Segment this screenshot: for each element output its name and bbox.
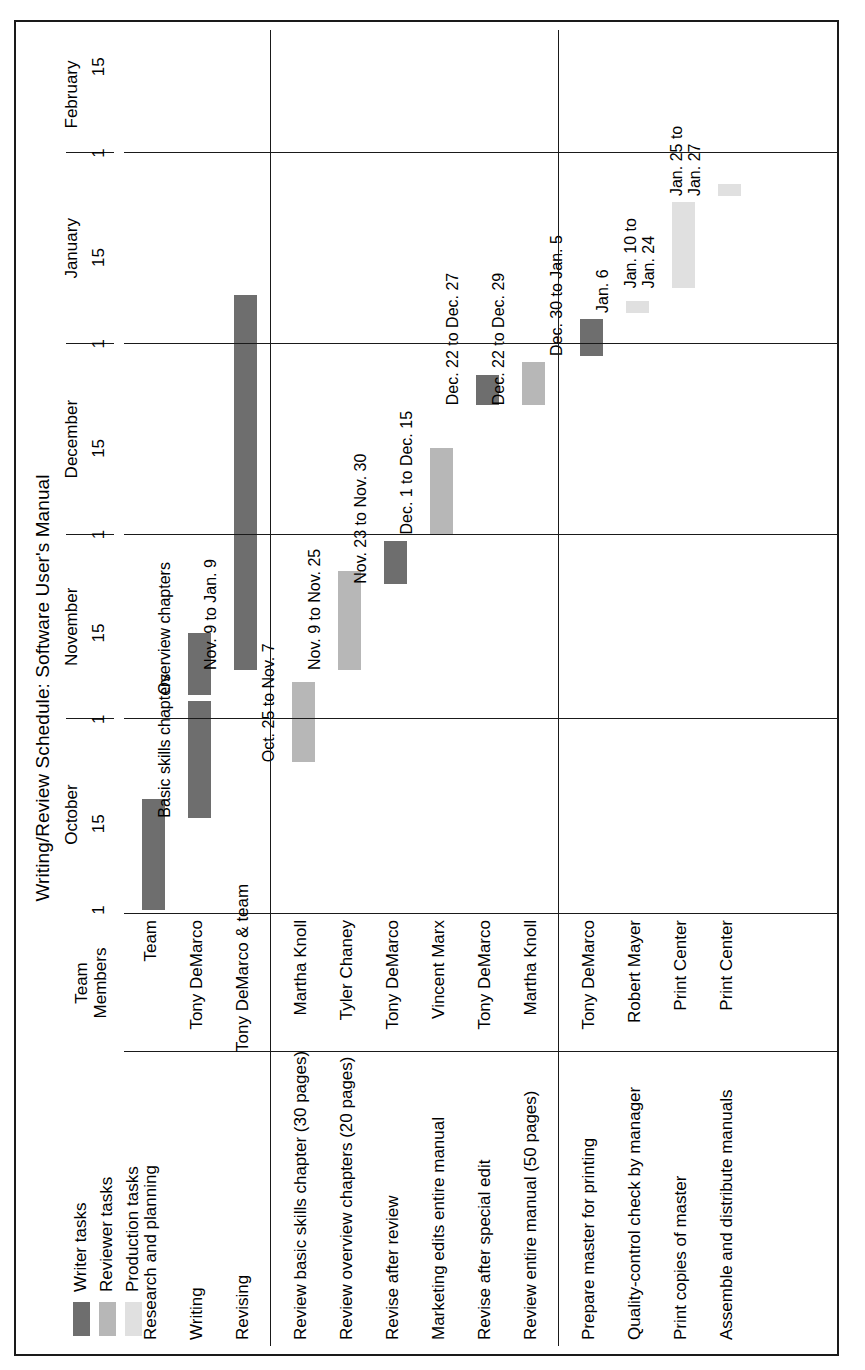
team-member-label: Vincent Marx	[429, 920, 449, 1052]
task-label: Revising	[233, 1058, 253, 1340]
bar-track: Jan. 6	[614, 36, 660, 910]
month-label: October	[62, 719, 82, 910]
gantt-bar[interactable]	[292, 682, 315, 762]
gantt-bar[interactable]	[234, 295, 257, 670]
chart-body: Research and planningTeamWritingTony DeM…	[124, 22, 837, 1354]
gantt-bar[interactable]	[522, 362, 545, 405]
team-members-line-2: Members	[91, 923, 110, 1043]
bar-date-label: Oct. 25 to Nov. 7	[260, 643, 278, 762]
bar-date-label: Dec. 1 to Dec. 15	[398, 411, 416, 535]
legend-label: Reviewer tasks	[97, 1177, 117, 1292]
table-row[interactable]: Revise after reviewTony DeMarcoNov. 23 t…	[372, 22, 418, 1354]
team-member-label: Tyler Chaney	[337, 920, 357, 1052]
axis-tick-label: 15	[89, 56, 109, 78]
axis-tick-label: 1	[89, 708, 109, 730]
bar-date-label: Overview chapters	[156, 562, 174, 695]
bar-date-label: Jan. 6	[594, 269, 612, 313]
task-label: Review overview chapters (20 pages)	[337, 1058, 357, 1340]
month-label: January	[62, 153, 82, 344]
task-label: Research and planning	[141, 1058, 161, 1340]
gantt-bar[interactable]	[430, 448, 453, 534]
month-label: February	[62, 36, 82, 153]
legend-label: Writer tasks	[71, 1203, 91, 1292]
bar-track: Jan. 25 toJan. 27	[706, 36, 752, 910]
gantt-bar[interactable]	[718, 184, 741, 196]
task-label: Review entire manual (50 pages)	[521, 1058, 541, 1340]
bar-track: Oct. 25 to Nov. 7	[280, 36, 326, 910]
bar-date-label: Nov. 9 to Jan. 9	[202, 559, 220, 670]
table-row[interactable]: Revise after special editTony DeMarcoDec…	[464, 22, 510, 1354]
task-label: Revise after special edit	[475, 1058, 495, 1340]
bar-track: Basic skills chaptersOverview chapters	[176, 36, 222, 910]
gantt-bar[interactable]	[626, 301, 649, 313]
task-label: Prepare master for printing	[579, 1058, 599, 1340]
month-gridline	[124, 534, 837, 535]
month-gridline	[124, 343, 837, 344]
team-members-line-1: Team	[72, 923, 91, 1043]
legend-swatch	[99, 1302, 116, 1336]
team-member-label: Tony DeMarco	[579, 920, 599, 1052]
team-member-label: Team	[141, 920, 161, 1052]
bar-track: Nov. 9 to Jan. 9	[222, 36, 268, 910]
task-label: Print copies of master	[671, 1058, 691, 1340]
bar-track: Dec. 1 to Dec. 15	[418, 36, 464, 910]
task-label: Assemble and distribute manuals	[717, 1058, 737, 1340]
bar-date-label: Nov. 23 to Nov. 30	[352, 454, 370, 584]
table-row[interactable]: Assemble and distribute manualsPrint Cen…	[706, 22, 752, 1354]
axis-tick-label: 1	[89, 333, 109, 355]
bar-date-label: Dec. 30 to Jan. 5	[548, 235, 566, 356]
team-member-label: Print Center	[671, 920, 691, 1052]
team-member-label: Robert Mayer	[625, 920, 645, 1052]
legend-item: Writer tasks	[68, 1168, 94, 1336]
axis-tick-label: 15	[89, 247, 109, 269]
bar-date-label: Nov. 9 to Nov. 25	[306, 549, 324, 670]
bar-track: Dec. 30 to Jan. 5	[568, 36, 614, 910]
axis-tick-label: 15	[89, 813, 109, 835]
bar-date-label: Basic skills chapters	[156, 674, 174, 818]
task-label: Revise after review	[383, 1058, 403, 1340]
team-member-label: Martha Knoll	[291, 920, 311, 1052]
gantt-bar[interactable]	[338, 572, 361, 670]
team-member-label: Print Center	[717, 920, 737, 1052]
table-row[interactable]: WritingTony DeMarcoBasic skills chapters…	[176, 22, 222, 1354]
task-label: Quality-control check by manager	[625, 1058, 645, 1340]
axis-tick-label: 1	[89, 142, 109, 164]
team-member-label: Tony DeMarco	[475, 920, 495, 1052]
table-row[interactable]: Review entire manual (50 pages)Martha Kn…	[510, 22, 556, 1354]
team-member-label: Tony DeMarco & team	[233, 920, 253, 1052]
bar-date-label: Jan. 25 toJan. 27	[668, 126, 703, 196]
legend-item: Reviewer tasks	[94, 1168, 120, 1336]
timeline-header: OctoberNovemberDecemberJanuaryFebruary11…	[62, 36, 124, 910]
month-label: November	[62, 535, 82, 720]
table-row[interactable]: Prepare master for printingTony DeMarcoD…	[568, 22, 614, 1354]
rotated-chart-canvas: Writing/Review Schedule: Software User's…	[0, 0, 865, 1370]
legend-swatch	[73, 1302, 90, 1336]
bar-date-label: Jan. 10 toJan. 24	[622, 218, 657, 288]
task-label: Review basic skills chapter (30 pages)	[291, 1058, 311, 1340]
month-label: December	[62, 344, 82, 535]
axis-tick-label: 15	[89, 437, 109, 459]
gantt-bar[interactable]	[580, 319, 603, 356]
task-label: Writing	[187, 1058, 207, 1340]
page-title: Writing/Review Schedule: Software User's…	[32, 22, 54, 1354]
gantt-bar[interactable]	[384, 541, 407, 584]
bar-track: Dec. 22 to Dec. 29	[510, 36, 556, 910]
axis-tick-label: 1	[89, 899, 109, 921]
team-member-label: Tony DeMarco	[187, 920, 207, 1052]
table-row[interactable]: Print copies of masterPrint CenterJan. 1…	[660, 22, 706, 1354]
group-separator	[558, 30, 559, 1346]
gantt-chart-sheet: Writing/Review Schedule: Software User's…	[14, 20, 839, 1356]
gantt-bar[interactable]	[672, 202, 695, 288]
axis-tick-label: 1	[89, 524, 109, 546]
table-row[interactable]: Marketing edits entire manualVincent Mar…	[418, 22, 464, 1354]
team-member-label: Martha Knoll	[521, 920, 541, 1052]
task-label: Marketing edits entire manual	[429, 1058, 449, 1340]
table-row[interactable]: Review overview chapters (20 pages)Tyler…	[326, 22, 372, 1354]
bar-date-label: Dec. 22 to Dec. 29	[490, 273, 508, 406]
team-member-label: Tony DeMarco	[383, 920, 403, 1052]
table-row[interactable]: Review basic skills chapter (30 pages)Ma…	[280, 22, 326, 1354]
bar-date-label: Dec. 22 to Dec. 27	[444, 273, 462, 406]
group-separator	[270, 30, 271, 1346]
column-header-team-members: Team Members	[72, 923, 110, 1043]
bar-track: Dec. 22 to Dec. 27	[464, 36, 510, 910]
